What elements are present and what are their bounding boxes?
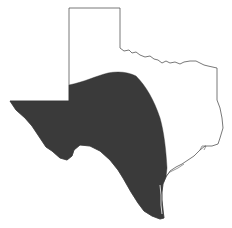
distribution-range-area (10, 72, 167, 219)
texas-range-map (0, 0, 232, 228)
